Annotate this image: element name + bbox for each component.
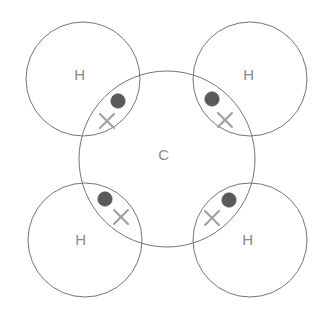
atom-label-carbon: C [158,146,169,163]
diagram-canvas: C H H H H [0,0,333,319]
electron-cross-icon [218,113,232,127]
atom-label-hydrogen-top-left: H [74,66,85,83]
electron-dot-icon [222,193,236,207]
bonding-pair-bottom-right [205,193,236,225]
electron-dot-icon [111,94,125,108]
electron-cross-icon [114,210,128,224]
electron-dot-icon [205,92,219,106]
atom-label-hydrogen-bottom-right: H [242,231,253,248]
bonding-pair-top-right [205,92,232,127]
atom-label-hydrogen-bottom-left: H [75,231,86,248]
electron-cross-icon [205,211,219,225]
atom-label-hydrogen-top-right: H [243,66,254,83]
electron-cross-icon [100,114,114,128]
ch4-dot-and-cross-diagram: C H H H H [0,0,333,319]
electron-dot-icon [98,192,112,206]
bonding-pair-top-left [100,94,125,128]
